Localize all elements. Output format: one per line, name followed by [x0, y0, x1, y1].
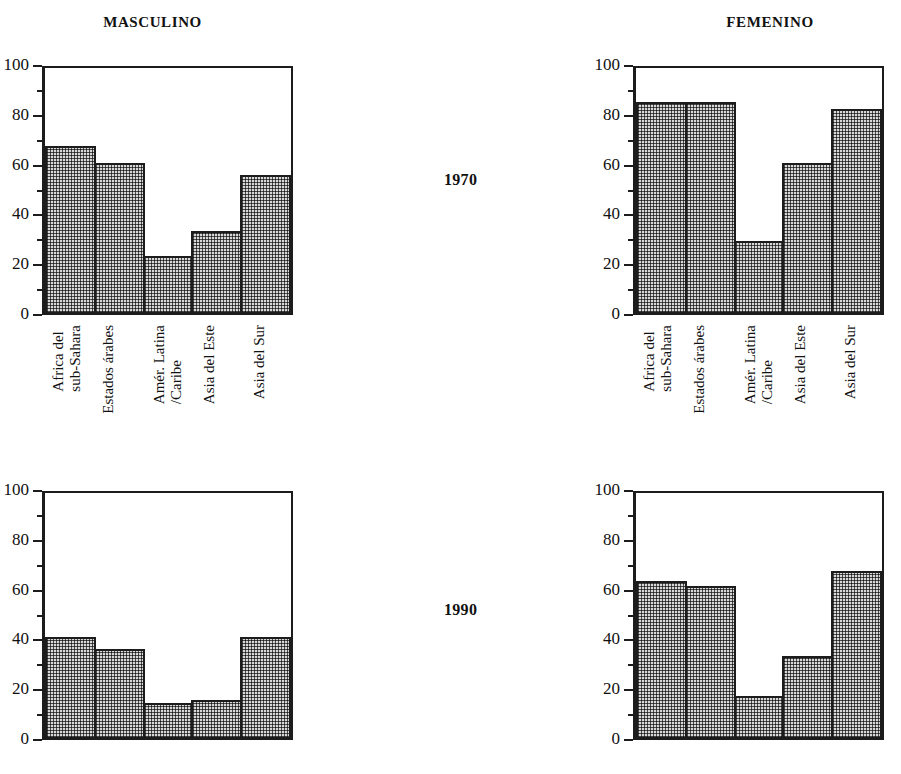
y-axis-tick-label: 0: [21, 729, 30, 749]
category-labels-masculino-1970: Africa del sub-SaharaEstados árabesAmér.…: [42, 321, 293, 471]
category-label: Asia del Este: [193, 321, 243, 471]
plot-area-femenino-1990: [633, 491, 884, 740]
y-axis-tick-label: 100: [595, 480, 621, 500]
category-label: Asia del Este: [784, 321, 834, 471]
category-label-text: Estados árabes: [100, 325, 117, 414]
y-axis-tick-label: 20: [603, 254, 620, 274]
bar-series-masculino-1990: [45, 493, 291, 737]
category-label: Asia del Sur: [834, 321, 884, 471]
tick-mark: [33, 739, 42, 741]
y-axis-tick-label: 60: [12, 155, 29, 175]
y-axis-tick-label: 80: [603, 530, 620, 550]
bar: [636, 102, 687, 312]
category-label-text: Estados árabes: [691, 325, 708, 414]
chart-masculino-1990: 020406080100: [0, 480, 300, 740]
y-axis-tick-label: 40: [12, 204, 29, 224]
bar: [143, 703, 194, 737]
y-axis-tick-label: 0: [612, 729, 621, 749]
bar: [782, 656, 833, 737]
category-label: Amér. Latina /Caribe: [733, 321, 783, 471]
tick-mark: [33, 65, 42, 67]
year-label-1990: 1990: [444, 601, 477, 619]
category-label-text: Asia del Este: [201, 325, 218, 404]
y-axis-tick-label: 40: [603, 629, 620, 649]
y-axis-tick-label: 80: [12, 530, 29, 550]
chart-femenino-1990: 020406080100: [591, 480, 891, 740]
bar: [734, 696, 785, 737]
tick-mark: [624, 639, 633, 641]
bar: [734, 241, 785, 312]
bar-series-masculino-1970: [45, 68, 291, 312]
bar: [636, 581, 687, 737]
bar: [240, 637, 291, 737]
panel-title-masculino: MASCULINO: [0, 14, 305, 31]
chart-femenino-1970: 020406080100 Africa del sub-SaharaEstado…: [591, 55, 891, 315]
tick-mark: [33, 689, 42, 691]
bar: [45, 637, 96, 737]
category-label: Estados árabes: [683, 321, 733, 471]
tick-mark: [624, 689, 633, 691]
bar: [685, 102, 736, 312]
tick-mark: [624, 65, 633, 67]
tick-mark: [33, 214, 42, 216]
tick-mark: [624, 590, 633, 592]
y-axis-tick-label: 40: [603, 204, 620, 224]
category-labels-femenino-1970: Africa del sub-SaharaEstados árabesAmér.…: [633, 321, 884, 471]
bar-series-femenino-1970: [636, 68, 882, 312]
y-axis-tick-label: 20: [12, 254, 29, 274]
y-axis-tick-label: 80: [603, 105, 620, 125]
category-label: Estados árabes: [92, 321, 142, 471]
y-axis-tick-label: 40: [12, 629, 29, 649]
tick-mark: [624, 739, 633, 741]
year-label-1970: 1970: [444, 171, 477, 189]
bar: [94, 649, 145, 737]
tick-mark: [33, 264, 42, 266]
category-label-text: Asia del Sur: [251, 325, 268, 399]
bar: [45, 146, 96, 312]
tick-mark: [624, 314, 633, 316]
category-label-text: Amér. Latina /Caribe: [742, 325, 776, 404]
category-label: Africa del sub-Sahara: [42, 321, 92, 471]
y-axis-masculino-1970: 020406080100: [0, 66, 42, 315]
tick-mark: [33, 540, 42, 542]
bar: [831, 571, 882, 737]
category-label-text: Asia del Sur: [842, 325, 859, 399]
category-label: Asia del Sur: [243, 321, 293, 471]
bar: [143, 256, 194, 312]
y-axis-tick-label: 80: [12, 105, 29, 125]
bar-series-femenino-1990: [636, 493, 882, 737]
tick-mark: [624, 264, 633, 266]
category-label-text: Asia del Este: [792, 325, 809, 404]
chart-masculino-1970: 020406080100 Africa del sub-SaharaEstado…: [0, 55, 300, 315]
plot-area-masculino-1970: [42, 66, 293, 315]
tick-mark: [624, 165, 633, 167]
y-axis-tick-label: 100: [4, 480, 30, 500]
bar: [782, 163, 833, 312]
plot-area-femenino-1970: [633, 66, 884, 315]
y-axis-tick-label: 20: [12, 679, 29, 699]
plot-area-masculino-1990: [42, 491, 293, 740]
bar: [191, 231, 242, 312]
y-axis-tick-label: 20: [603, 679, 620, 699]
y-axis-tick-label: 0: [612, 304, 621, 324]
bar: [191, 700, 242, 737]
category-label-text: Africa del sub-Sahara: [641, 325, 675, 392]
category-label-text: Africa del sub-Sahara: [50, 325, 84, 392]
tick-mark: [624, 490, 633, 492]
category-label: Africa del sub-Sahara: [633, 321, 683, 471]
y-axis-tick-label: 60: [12, 580, 29, 600]
y-axis-femenino-1990: 020406080100: [591, 491, 633, 740]
y-axis-tick-label: 60: [603, 580, 620, 600]
y-axis-femenino-1970: 020406080100: [591, 66, 633, 315]
bar: [240, 175, 291, 312]
tick-mark: [33, 165, 42, 167]
category-label-text: Amér. Latina /Caribe: [151, 325, 185, 404]
tick-mark: [624, 540, 633, 542]
tick-mark: [33, 115, 42, 117]
tick-mark: [33, 639, 42, 641]
y-axis-masculino-1990: 020406080100: [0, 491, 42, 740]
y-axis-tick-label: 0: [21, 304, 30, 324]
bar: [685, 586, 736, 737]
bar: [94, 163, 145, 312]
y-axis-tick-label: 100: [4, 55, 30, 75]
